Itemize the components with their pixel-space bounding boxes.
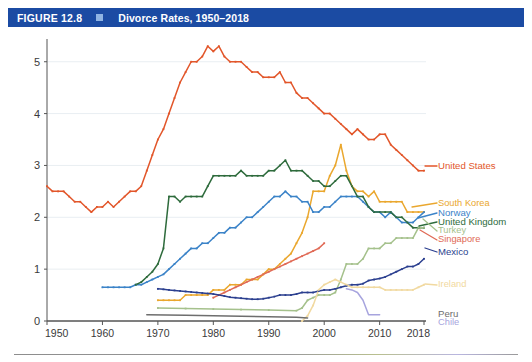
svg-text:1980: 1980 [202, 327, 226, 339]
svg-text:2: 2 [34, 211, 40, 223]
title-separator-square [96, 14, 103, 21]
svg-text:1990: 1990 [257, 327, 281, 339]
legend-leader-lines [412, 166, 437, 285]
svg-text:3: 3 [34, 159, 40, 171]
svg-text:1: 1 [34, 263, 40, 275]
svg-text:2010: 2010 [368, 327, 392, 339]
svg-text:2018: 2018 [407, 327, 431, 339]
page-title: Divorce Rates, 1950–2018 [118, 12, 249, 24]
svg-text:4: 4 [34, 108, 40, 120]
svg-text:2000: 2000 [313, 327, 337, 339]
footer-divider [14, 354, 518, 355]
gridlines [47, 62, 426, 321]
svg-text:5: 5 [34, 56, 40, 68]
x-axis-tick-labels: 19501960197019801990200020102018 [45, 321, 430, 339]
svg-text:0: 0 [34, 315, 40, 327]
figure-number: FIGURE 12.8 [17, 12, 82, 24]
svg-text:1950: 1950 [45, 327, 69, 339]
figure-container: FIGURE 12.8 Divorce Rates, 1950–2018 012… [0, 0, 532, 362]
data-series-lines [47, 46, 424, 321]
figure-title-bar: FIGURE 12.8 Divorce Rates, 1950–2018 [8, 8, 524, 27]
data-series-markers [46, 45, 425, 322]
y-axis-tick-labels: 012345 [34, 56, 47, 327]
svg-text:1960: 1960 [91, 327, 115, 339]
svg-text:1970: 1970 [146, 327, 170, 339]
chart-plot-area: 012345 19501960197019801990200020102018 [0, 27, 532, 347]
line-chart-svg: 012345 19501960197019801990200020102018 [0, 27, 532, 347]
